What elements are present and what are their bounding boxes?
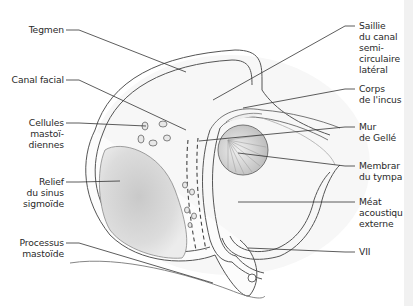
- label-nerf-vii: VII: [359, 246, 370, 257]
- label-meat-acoustique: Méat acoustiqu externe: [359, 196, 403, 229]
- label-corps-incus: Corps de l'incus: [359, 83, 402, 105]
- leader-tegmen: [66, 30, 186, 72]
- tympanic-membrane: [218, 125, 268, 175]
- label-cellules-mastoidiennes: Cellules mastoï- diennes: [29, 117, 64, 150]
- label-mur-gelle: Mur de Gellé: [359, 121, 396, 143]
- label-saillie-canal-semicirculaire: Saillie du canal semi- circulaire latéra…: [359, 20, 400, 75]
- page-edge-strip: [404, 0, 413, 306]
- label-relief-sinus-sigmoide: Relief du sinus sigmoïde: [23, 176, 64, 209]
- label-canal-facial: Canal facial: [12, 74, 64, 85]
- temporal-bone-illustration: [0, 0, 413, 306]
- label-processus-mastoide: Processus mastoïde: [19, 237, 64, 259]
- anatomy-figure: [0, 0, 413, 306]
- label-membrane-tympan: Membrar du tympa: [359, 160, 402, 182]
- nerve-vii-cross-section: [248, 274, 256, 282]
- label-tegmen: Tegmen: [29, 24, 64, 35]
